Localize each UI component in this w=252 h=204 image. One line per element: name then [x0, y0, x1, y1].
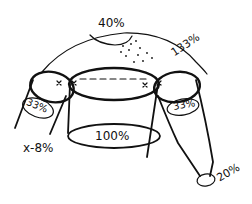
- neck-opening: [90, 35, 132, 45]
- label-underarm: x-8%: [23, 141, 53, 155]
- label-body: 100%: [95, 129, 129, 143]
- right-sleeve-outer: [196, 80, 213, 176]
- body-left-side: [68, 84, 70, 133]
- label-neck: 40%: [98, 16, 125, 30]
